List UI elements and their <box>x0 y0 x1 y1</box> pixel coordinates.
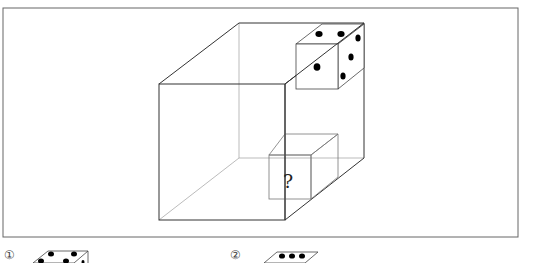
pip <box>348 53 353 60</box>
puzzle-figure: ? ① ② <box>0 0 545 263</box>
option-2-label: ② <box>230 248 241 262</box>
option-2[interactable]: ② <box>230 248 318 263</box>
unknown-die <box>269 134 338 199</box>
pip <box>315 31 322 37</box>
pip <box>299 253 305 258</box>
pip <box>48 252 54 257</box>
pip <box>314 63 321 71</box>
pip <box>355 34 360 41</box>
pip <box>279 253 285 258</box>
pip <box>340 72 345 79</box>
option-1-label: ① <box>4 248 15 262</box>
figure-frame <box>3 8 518 237</box>
question-mark: ? <box>283 170 293 192</box>
pip <box>71 252 77 257</box>
die-top-right <box>285 23 364 89</box>
pip <box>337 31 344 37</box>
pip <box>289 253 295 258</box>
option-1[interactable]: ① <box>4 248 88 263</box>
